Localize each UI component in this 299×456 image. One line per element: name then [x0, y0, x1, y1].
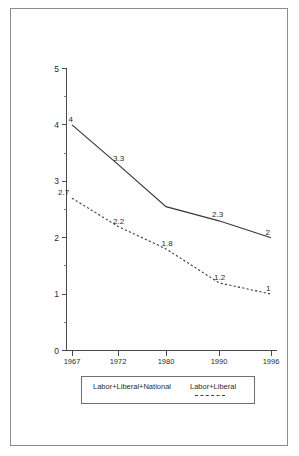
y-tick-label-1: 1: [54, 289, 59, 299]
y-tick-label-4: 4: [54, 120, 59, 130]
figure-container: 5 4 3 2 1 0 1967 1972 1980 1990 1996 4 3…: [0, 0, 299, 456]
point-label-solid-1990: 2.3: [212, 210, 224, 219]
point-label-solid-1972: 3.3: [113, 154, 125, 163]
legend-dashed-sample: [195, 395, 225, 396]
chart-legend: Labor+Liberal+National Labor+Liberal: [81, 376, 255, 404]
x-tick-label-1972: 1972: [110, 357, 127, 366]
legend-entry-labor-liberal-national: Labor+Liberal+National: [93, 382, 171, 391]
x-tick-label-1980: 1980: [158, 357, 175, 366]
x-tick-label-1996: 1996: [263, 357, 280, 366]
point-label-dashed-1990: 1.2: [214, 273, 226, 282]
point-label-dashed-1980: 1.8: [162, 239, 174, 248]
point-label-dashed-1967: 2.7: [58, 188, 70, 197]
series-line-labor-liberal-national: [72, 125, 271, 238]
x-tick-label-1967: 1967: [64, 357, 81, 366]
point-label-dashed-1972: 2.2: [113, 217, 125, 226]
point-label-solid-1996: 2: [266, 228, 271, 237]
legend-entry-labor-liberal: Labor+Liberal: [190, 382, 236, 391]
y-tick-label-2: 2: [54, 233, 59, 243]
x-tick-label-1990: 1990: [211, 357, 228, 366]
y-tick-label-3: 3: [54, 176, 59, 186]
y-tick-label-5: 5: [54, 64, 59, 74]
point-label-solid-1967: 4: [69, 115, 74, 124]
point-label-dashed-1996: 1: [266, 284, 271, 293]
y-tick-label-0: 0: [54, 346, 59, 356]
